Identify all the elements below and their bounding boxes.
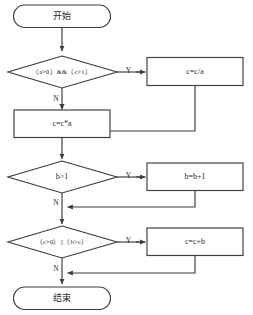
flowchart-diagram: 开始 （a>0）&&（c>1） c=c/a c=c*a b>1 b=b+1 [0,0,253,315]
node-end: 结束 [14,287,111,310]
cond2-label: b>1 [56,172,69,181]
flowchart-canvas: 开始 （a>0）&&（c>1） c=c/a c=c*a b>1 b=b+1 [0,0,253,315]
node-cond2: b>1 [8,161,117,193]
edge-label-cond3-no: N [53,264,59,273]
node-start: 开始 [14,5,111,28]
node-proc-c-plus-b: c=c+b [147,228,243,256]
edge-label-cond1-yes: Y [126,66,132,75]
end-label: 结束 [53,292,71,303]
node-cond3: （c>0）||（b>c） [8,226,117,258]
node-proc-b-plus-1: b=b+1 [147,163,243,191]
proc-c-div-a-label: c=c/a [186,67,204,76]
node-proc-c-div-a: c=c/a [147,58,243,86]
cond3-label: （c>0）||（b>c） [36,238,88,245]
edge-label-cond3-yes: Y [126,236,132,245]
edge-label-cond1-no: N [53,94,59,103]
proc-c-mul-a-label: c=c*a [52,119,72,128]
edge-proc-cplusb-merge [68,256,196,274]
proc-b-plus-1-label: b=b+1 [184,172,205,181]
proc-c-plus-b-label: c=c+b [185,237,205,246]
edge-proc-bplus1-merge [68,191,196,208]
cond1-label: （a>0）&&（c>1） [32,68,92,75]
start-label: 开始 [53,10,71,21]
node-proc-c-mul-a: c=c*a [14,110,110,138]
node-cond1: （a>0）&&（c>1） [8,56,117,88]
edge-label-cond2-yes: Y [126,171,132,180]
edge-label-cond2-no: N [53,198,59,207]
